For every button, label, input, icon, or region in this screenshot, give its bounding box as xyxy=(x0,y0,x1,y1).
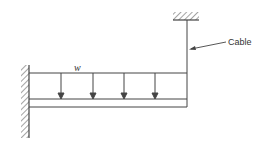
cable-label: Cable xyxy=(228,38,252,47)
fixed-wall-support xyxy=(21,65,29,138)
beam xyxy=(29,99,187,107)
beam-diagram xyxy=(0,0,262,149)
load-arrows xyxy=(58,73,158,99)
load-arrow-icon xyxy=(152,73,158,99)
ceiling-support xyxy=(173,12,199,20)
load-label: w xyxy=(74,63,81,73)
cable-leader-arrow-icon xyxy=(189,42,226,50)
load-arrow-icon xyxy=(90,73,96,99)
load-arrow-icon xyxy=(121,73,127,99)
load-arrow-icon xyxy=(58,73,64,99)
